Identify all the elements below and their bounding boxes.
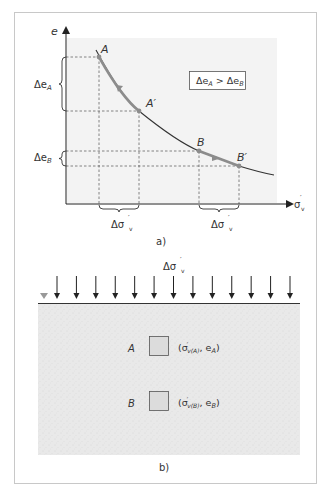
point-label-A-prime: A′	[145, 97, 157, 110]
svg-text:v: v	[129, 225, 133, 232]
soil-layer	[38, 304, 300, 455]
point-B-prime	[237, 164, 242, 169]
element-square-B	[150, 392, 169, 411]
svg-text:v: v	[181, 267, 185, 274]
caption-b: b)	[159, 462, 169, 473]
svg-text:v: v	[301, 205, 305, 212]
point-label-B: B	[197, 136, 205, 149]
y-axis-label: e	[51, 25, 58, 38]
svg-text:Δσ: Δσ	[211, 219, 225, 230]
caption-a: a)	[156, 236, 166, 247]
consolidation-figure: e σ ′ v A A′ B B′ ΔeA > ΔeB	[0, 0, 328, 490]
element-label-A: A	[127, 343, 135, 354]
point-B	[197, 149, 202, 154]
svg-text:v: v	[229, 225, 233, 232]
svg-text:Δσ: Δσ	[163, 261, 177, 272]
inequality-box: ΔeA > ΔeB	[190, 72, 246, 90]
element-label-B: B	[128, 398, 135, 409]
point-label-A: A	[100, 43, 109, 56]
point-A-prime	[137, 109, 142, 114]
point-label-B-prime: B′	[237, 151, 248, 164]
svg-text:Δσ: Δσ	[111, 219, 125, 230]
element-square-A	[150, 337, 169, 356]
plot-background	[67, 38, 277, 203]
